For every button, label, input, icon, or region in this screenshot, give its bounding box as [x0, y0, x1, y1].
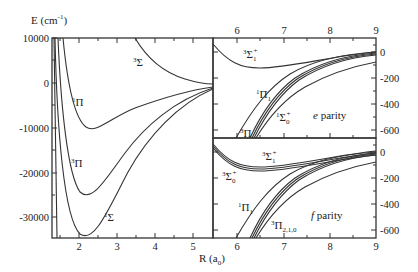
rt-label-3sigma1: 3Σ1+: [243, 47, 257, 63]
rt-label-1pi1: 1Π1: [256, 88, 271, 103]
left-x-tick-label: 4: [152, 241, 158, 252]
left-y-tick-label: -10000: [19, 123, 49, 134]
rt-curve-1sigma0: [256, 62, 376, 138]
rb-x-tick-label: 8: [327, 241, 332, 252]
rb-x-tick-label: 7: [281, 241, 286, 252]
rb-label-3sigma0: 3Σ0+: [222, 169, 236, 185]
right-top-ticks: [213, 38, 376, 138]
curve-3sigma: [135, 38, 213, 84]
rb-x-tick-label: 6: [234, 241, 239, 252]
label-1pi: 1Π: [72, 96, 84, 108]
potential-energy-figure: E (cm-1): [0, 0, 418, 272]
right-top-panel: 6 7 8 9 0 -200 -400 -600 3Σ1+ 1Π1 1Σ0+ 3…: [213, 25, 399, 139]
rt-x-tick-label: 9: [373, 25, 378, 36]
rb-y-tick-label: 0: [380, 147, 385, 158]
rt-y-tick-label: 0: [380, 47, 385, 58]
right-bottom-frame: [213, 138, 376, 238]
rt-x-tick-label: 7: [281, 25, 286, 36]
e-parity-label: e parity: [313, 109, 347, 121]
left-y-tick-label: 10000: [23, 33, 49, 44]
label-3pi: 3Π: [71, 157, 83, 169]
left-y-tick-label: 0: [44, 78, 49, 89]
rt-x-tick-label: 8: [327, 25, 332, 36]
left-x-tick-label: 3: [114, 241, 119, 252]
rt-y-tick-label: -400: [380, 99, 399, 110]
right-top-frame: [213, 38, 376, 138]
rt-y-tick-label: -600: [380, 125, 399, 136]
x-axis-label: R (a0): [199, 252, 225, 267]
left-y-tick-label: -30000: [19, 212, 49, 223]
rb-label-3pi210: 3Π2,1,0: [271, 219, 297, 234]
rb-y-tick-label: -200: [380, 173, 399, 184]
curve-1sigma: [55, 38, 213, 236]
rb-x-tick-label: 9: [373, 241, 378, 252]
left-x-tick-label: 5: [190, 241, 195, 252]
rb-y-tick-label: -600: [380, 225, 399, 236]
y-axis-label: E (cm-1): [31, 13, 67, 27]
curve-1pi: [63, 38, 213, 129]
left-plot-frame: [52, 38, 213, 238]
rb-label-1pi1: 1Π1: [238, 201, 253, 216]
rt-label-1sigma0: 1Σ0+: [276, 110, 290, 126]
rb-curve-3sigma1: [213, 144, 376, 167]
left-x-tick-label: 2: [76, 241, 81, 252]
left-y-tick-label: -20000: [19, 168, 49, 179]
label-1sigma: 1Σ: [104, 211, 114, 223]
rt-x-tick-label: 6: [234, 25, 239, 36]
rt-y-tick-label: -200: [380, 73, 399, 84]
rb-label-3sigma1: 3Σ1+: [262, 149, 276, 165]
f-parity-label: f parity: [311, 209, 343, 221]
left-x-ticks: [60, 38, 193, 238]
rt-label-3pi: 3Π: [240, 127, 252, 139]
right-bottom-panel: 6 7 8 9 0 -200 -400 -600 3Σ1+ 3Σ0+ 1Π1 3…: [213, 138, 399, 252]
label-3sigma: 3Σ: [133, 56, 143, 68]
rb-y-tick-label: -400: [380, 199, 399, 210]
left-panel: 10000 0 -10000 -20000 -30000 2 3 4 5 3Σ …: [19, 33, 213, 252]
